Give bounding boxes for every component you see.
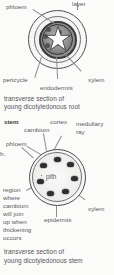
- label-epidermis: epidermis: [44, 216, 71, 223]
- vascular-bundle: [54, 157, 61, 162]
- vascular-bundle: [62, 189, 69, 194]
- figure-page: layer phloem pericycle endodermis xylem …: [0, 0, 114, 275]
- label-phloem-root: phloem: [6, 3, 27, 10]
- label-endodermis: endodermis: [40, 84, 73, 91]
- root-cross-section-diagram: [28, 10, 87, 69]
- label-ray: ray: [76, 128, 85, 135]
- note-line-5: thickening: [3, 226, 31, 233]
- note-line-3: will join: [3, 210, 23, 217]
- note-line-6: occurs: [3, 234, 22, 241]
- stem-caption-line-1: transverse section of: [4, 248, 112, 256]
- label-cortex: cortex: [50, 118, 67, 125]
- label-layer: layer: [72, 0, 86, 7]
- label-stem: stem: [4, 118, 19, 125]
- root-xylem-star: [45, 26, 71, 52]
- vascular-bundle: [67, 162, 74, 167]
- vascular-bundle: [37, 179, 44, 184]
- label-pith: pith: [46, 173, 56, 180]
- note-line-2: cambium: [3, 202, 28, 209]
- stem-cross-section-diagram: pith: [29, 149, 86, 206]
- label-phloem-stem: phloem: [6, 140, 27, 147]
- vascular-bundle: [40, 163, 47, 168]
- label-xylem-stem: xylem: [88, 205, 104, 212]
- root-caption-line-2: young dicotyledonous root: [4, 103, 114, 111]
- note-line-4: up when: [3, 218, 27, 225]
- label-pericycle: pericycle: [3, 76, 28, 83]
- note-line-1: where: [3, 194, 20, 201]
- label-cambium: cambium: [24, 126, 49, 133]
- vascular-bundle: [71, 176, 78, 181]
- label-xylem-root: xylem: [88, 76, 104, 83]
- vascular-bundle: [47, 191, 54, 196]
- stem-caption-line-2: young dicotyledonous stem: [4, 257, 114, 265]
- label-partial-left: h.: [0, 150, 5, 157]
- label-medullary: medullary: [76, 120, 103, 127]
- note-line-0: region: [3, 186, 21, 193]
